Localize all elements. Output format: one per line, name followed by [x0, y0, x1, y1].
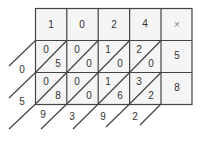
top-digit-1: 1 [44, 19, 58, 31]
multiply-icon: × [170, 19, 184, 31]
cell-r2c3-tens: 1 [101, 76, 115, 88]
cell-r2c3-ones: 6 [113, 90, 127, 102]
bottom-result-4: 2 [128, 111, 142, 123]
cell-r2c1-tens: 0 [39, 76, 53, 88]
cell-r1c3-ones: 0 [113, 58, 127, 70]
top-digit-3: 2 [107, 19, 121, 31]
cell-r1c4-tens: 2 [132, 44, 146, 56]
top-digit-4: 4 [138, 18, 152, 30]
cell-r1c1-ones: 5 [51, 58, 65, 70]
cell-r1c4-ones: 0 [144, 58, 158, 70]
right-digit-1: 5 [170, 50, 184, 62]
cell-r2c2-tens: 0 [70, 76, 84, 88]
cell-r1c1-tens: 0 [39, 44, 53, 56]
cell-r2c4-tens: 3 [132, 76, 146, 88]
bottom-result-1: 9 [36, 109, 50, 121]
cell-r2c4-ones: 2 [144, 90, 158, 102]
left-result-2: 5 [15, 96, 29, 108]
cell-r1c2-ones: 0 [82, 58, 96, 70]
bottom-result-3: 9 [96, 111, 110, 123]
cell-r1c3-tens: 1 [101, 44, 115, 56]
bottom-result-2: 3 [65, 111, 79, 123]
cell-r1c2-tens: 0 [70, 44, 84, 56]
cell-r2c1-ones: 8 [51, 90, 65, 102]
top-digit-2: 0 [75, 19, 89, 31]
right-digit-2: 8 [170, 82, 184, 94]
lattice-diagram: 1 0 2 4 × 5 8 0 5 0 0 1 0 2 0 0 8 0 0 1 … [0, 0, 202, 146]
left-result-1: 0 [15, 64, 29, 76]
cell-r2c2-ones: 0 [82, 90, 96, 102]
